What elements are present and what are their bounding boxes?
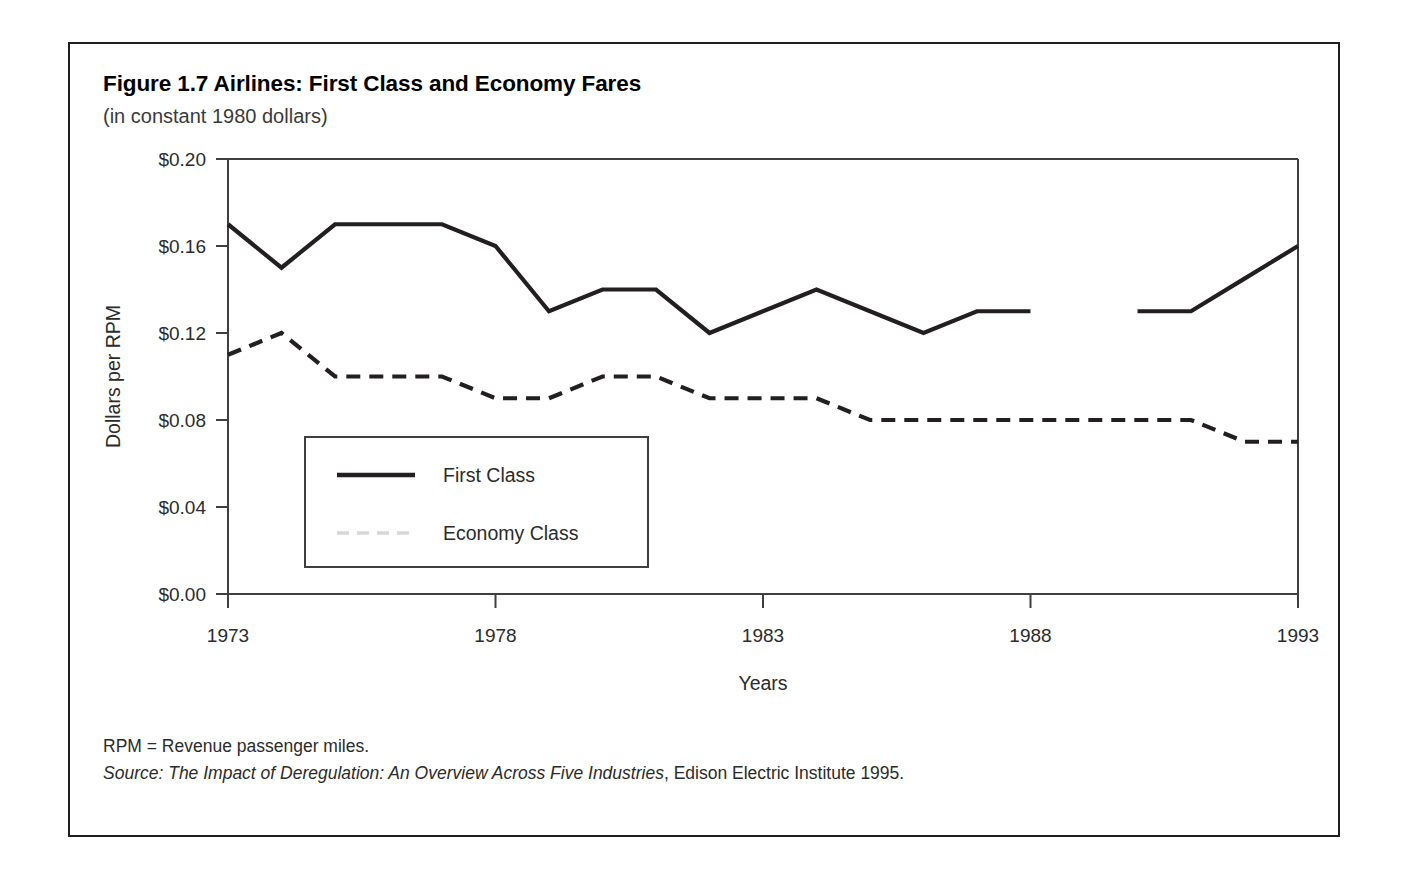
series-line	[228, 333, 1298, 442]
y-axis-tick-label: $0.16	[158, 236, 206, 257]
x-axis-tick-label: 1978	[474, 625, 516, 646]
y-axis-tick-label: $0.08	[158, 410, 206, 431]
y-axis-tick-label: $0.04	[158, 497, 206, 518]
series-line	[228, 224, 1031, 333]
legend-box	[305, 437, 648, 567]
footnote-rpm: RPM = Revenue passenger miles.	[103, 733, 1253, 760]
x-axis-tick-label: 1988	[1009, 625, 1051, 646]
footnote-source: Source: The Impact of Deregulation: An O…	[103, 760, 1253, 787]
y-axis-title: Dollars per RPM	[102, 305, 124, 448]
x-axis-tick-label: 1993	[1277, 625, 1319, 646]
x-axis-tick-label: 1983	[742, 625, 784, 646]
y-axis-tick-label: $0.20	[158, 149, 206, 170]
chart-series	[228, 224, 1298, 442]
x-axis-title: Years	[738, 672, 787, 694]
footnote-source-rest: , Edison Electric Institute 1995.	[664, 763, 904, 783]
footnotes: RPM = Revenue passenger miles. Source: T…	[103, 733, 1253, 787]
chart-legend: First ClassEconomy Class	[305, 437, 648, 567]
y-axis-tick-label: $0.00	[158, 584, 206, 605]
x-axis-tick-label: 1973	[207, 625, 249, 646]
series-line	[1138, 246, 1299, 311]
chart-plot: $0.00$0.04$0.08$0.12$0.16$0.201973197819…	[70, 44, 1342, 839]
figure-frame: Figure 1.7 Airlines: First Class and Eco…	[68, 42, 1340, 837]
legend-label: First Class	[443, 464, 535, 486]
y-axis-tick-label: $0.12	[158, 323, 206, 344]
footnote-source-label: Source:	[103, 763, 168, 783]
footnote-source-title: The Impact of Deregulation: An Overview …	[168, 763, 664, 783]
legend-label: Economy Class	[443, 522, 579, 544]
